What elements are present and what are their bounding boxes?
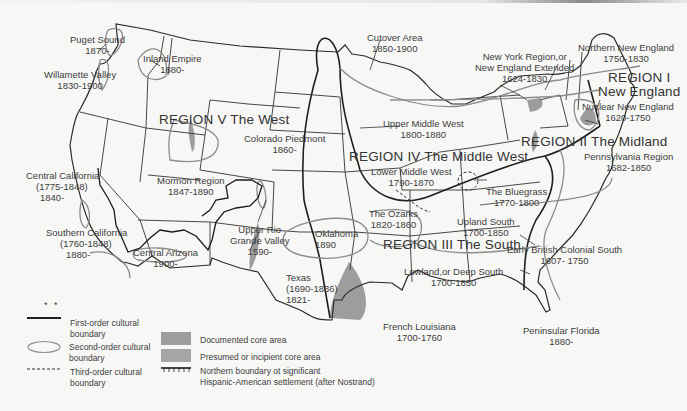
label-peninsular-florida: Peninsular Florida1880-	[523, 325, 600, 347]
region-v-label: REGION V The West	[159, 112, 289, 127]
label-colorado-piedmont: Colorado Piedmont1860-	[244, 133, 325, 155]
label-central-california: Central California(1775-1848)1840-	[26, 170, 99, 203]
legend-hispanic-boundary: Northern boundary ot significantHispanic…	[200, 366, 375, 387]
legend-documented-core-swatch	[161, 332, 191, 345]
label-the-ozarks: The Ozarks1820-1860	[369, 208, 418, 230]
label-northern-new-england: Northern New England1750-1830	[578, 42, 674, 64]
label-pennsylvania-region: Pennsylvania Region1682-1850	[584, 151, 673, 173]
label-central-arizona: Central Arizona1900-	[133, 247, 198, 269]
label-mormon-region: Mormon Region1847-1890	[157, 175, 225, 197]
region-iv-label: REGION IV The Middle West	[349, 149, 528, 164]
label-french-louisiana: French Louisiana1700-1760	[383, 321, 456, 343]
label-inland-empire: Inland Empire1880-	[143, 53, 202, 75]
legend-presumed-core-swatch	[161, 349, 191, 362]
region-iii-label: REGION III The South	[383, 237, 521, 252]
region-i-label: REGION I	[608, 70, 670, 85]
label-puget-sound: Puget Sound1870-	[70, 34, 125, 56]
legend-dashed-line-symbol	[26, 366, 62, 372]
label-early-british-colonial-south: Early British Colonial South1607- 1750	[507, 244, 622, 266]
legend-first-order: First-order culturalboundary	[70, 318, 139, 339]
legend-ellipse-symbol	[26, 340, 62, 354]
label-nuclear-new-england: Nuclear New England1620-1750	[582, 101, 674, 123]
legend-hatched-line-symbol	[160, 366, 192, 374]
label-new-york-region: New York Region,orNew England Extended16…	[475, 51, 574, 84]
label-upland-south: Upland South1700-1850	[457, 216, 515, 238]
label-cutover-area: Cutover Area1850-1900	[367, 32, 422, 54]
legend-second-order: Second-order culturalboundary	[69, 342, 150, 363]
region-i-sublabel: New England	[598, 84, 681, 99]
legend-solid-line-symbol	[26, 315, 62, 321]
label-upper-middle-west: Upper Middle West1800-1880	[383, 118, 464, 140]
label-oklahoma: Oklahoma1890	[315, 228, 358, 250]
region-ii-label: REGION II The Midland	[521, 134, 668, 149]
label-upper-rio-grande-valley: Upper RioGrande Valley1590-	[230, 224, 290, 257]
label-willamette-valley: Willamette Valley1830-1900	[44, 69, 116, 91]
legend-asterisks: * *	[44, 300, 60, 311]
legend-documented-core: Documented core area	[200, 335, 286, 346]
legend-third-order: Third-order culturalboundary	[70, 367, 142, 388]
label-lower-middle-west: Lower Middle West1790-1870	[371, 166, 452, 188]
legend-presumed-core: Presumed or incipient core area	[200, 352, 320, 363]
label-lowland-deep-south: Lowland,or Deep South1700-1850	[404, 266, 503, 288]
label-southern-california: Southern California(1760-1848)1880-	[46, 227, 127, 260]
label-texas: Texas(1690-1836)1821-	[286, 272, 338, 305]
label-the-bluegrass: The Bluegrass1770-1800	[486, 186, 547, 208]
